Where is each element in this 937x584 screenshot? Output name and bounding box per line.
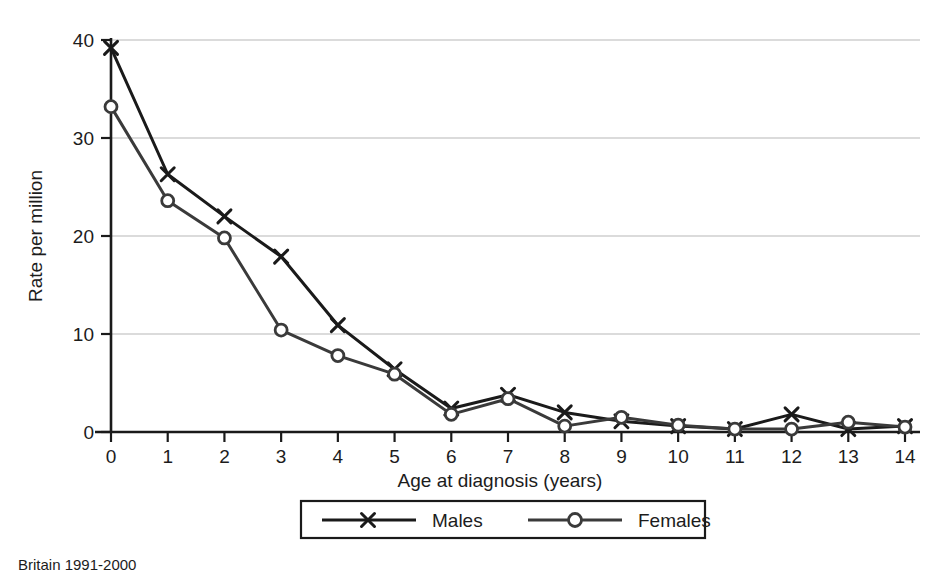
x-tick-label: 12 xyxy=(781,446,802,467)
x-tick-label: 13 xyxy=(838,446,859,467)
data-point-circle-marker xyxy=(105,101,117,113)
data-point-circle-marker xyxy=(218,232,230,244)
legend-label-females: Females xyxy=(638,510,711,531)
x-tick-label: 6 xyxy=(446,446,457,467)
data-point-circle-marker xyxy=(842,416,854,428)
data-point-circle-marker xyxy=(332,350,344,362)
line-chart: 010203040 01234567891011121314 Rate per … xyxy=(0,0,937,584)
x-tick-label: 1 xyxy=(162,446,173,467)
chart-figure: 010203040 01234567891011121314 Rate per … xyxy=(0,0,937,584)
x-tick-label: 7 xyxy=(503,446,514,467)
data-point-circle-marker xyxy=(559,420,571,432)
x-tick-label: 0 xyxy=(106,446,117,467)
y-axis-title: Rate per million xyxy=(25,170,46,302)
data-point-circle-marker xyxy=(445,408,457,420)
chart-background xyxy=(0,0,937,584)
y-tick-label: 10 xyxy=(73,324,94,345)
data-point-circle-marker xyxy=(162,195,174,207)
data-point-circle-marker xyxy=(275,324,287,336)
data-point-circle-marker xyxy=(502,393,514,405)
x-tick-label: 14 xyxy=(894,446,916,467)
source-note: Britain 1991-2000 xyxy=(18,556,136,573)
chart-legend: Males Females xyxy=(301,501,711,538)
y-tick-label: 20 xyxy=(73,226,94,247)
data-point-circle-marker xyxy=(899,421,911,433)
data-point-circle-marker xyxy=(672,419,684,431)
x-tick-label: 3 xyxy=(276,446,287,467)
x-axis-title: Age at diagnosis (years) xyxy=(398,470,603,491)
x-tick-label: 8 xyxy=(559,446,570,467)
x-tick-label: 2 xyxy=(219,446,230,467)
data-point-circle-marker xyxy=(786,423,798,435)
x-tick-label: 10 xyxy=(668,446,689,467)
y-tick-label: 40 xyxy=(73,30,94,51)
data-point-circle-marker xyxy=(729,423,741,435)
data-point-circle-marker xyxy=(615,411,627,423)
legend-females-circle-icon xyxy=(569,514,582,527)
x-tick-label: 4 xyxy=(333,446,344,467)
y-tick-label: 30 xyxy=(73,128,94,149)
x-tick-label: 5 xyxy=(389,446,400,467)
data-point-circle-marker xyxy=(389,368,401,380)
x-tick-label: 11 xyxy=(725,446,745,467)
y-tick-label: 0 xyxy=(83,422,94,443)
x-tick-label: 9 xyxy=(616,446,627,467)
legend-label-males: Males xyxy=(432,510,483,531)
